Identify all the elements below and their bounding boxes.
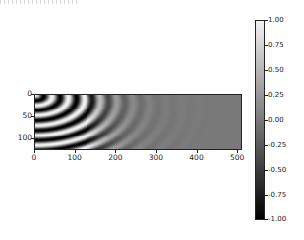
y-tick-label: 0 bbox=[27, 90, 32, 98]
colorbar-tick-label: -0.25 bbox=[268, 141, 286, 149]
y-tick-label: 50 bbox=[22, 112, 32, 120]
y-tick-label: 100 bbox=[18, 134, 32, 142]
colorbar-tick-label: 0.75 bbox=[268, 41, 284, 49]
x-tick-label: 0 bbox=[32, 154, 37, 162]
colorbar-tick-label: -0.50 bbox=[268, 166, 286, 174]
colorbar-tick-label: -1.00 bbox=[268, 215, 286, 223]
heatmap-canvas bbox=[35, 95, 241, 149]
colorbar-tick-label: 0.25 bbox=[268, 91, 284, 99]
colorbar-tick-label: 0.00 bbox=[268, 116, 284, 124]
colorbar-tick-label: -0.75 bbox=[268, 191, 286, 199]
clipped-text-fragment bbox=[0, 0, 80, 4]
x-tick-label: 300 bbox=[149, 154, 163, 162]
x-tick-label: 500 bbox=[230, 154, 244, 162]
heatmap-plot-area bbox=[34, 94, 242, 150]
colorbar bbox=[255, 20, 265, 220]
x-tick-label: 400 bbox=[189, 154, 203, 162]
colorbar-tick-label: 0.50 bbox=[268, 66, 284, 74]
x-tick-label: 200 bbox=[108, 154, 122, 162]
x-tick-label: 100 bbox=[67, 154, 81, 162]
colorbar-tick-label: 1.00 bbox=[268, 16, 284, 24]
